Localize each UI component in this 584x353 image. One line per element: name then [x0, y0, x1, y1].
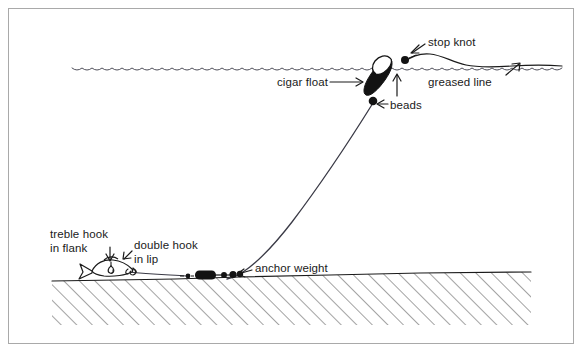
bait-fish	[79, 257, 136, 279]
label-double-hook: double hook in lip	[134, 239, 198, 266]
arrow-double-hook	[123, 251, 132, 259]
water-surface	[72, 68, 562, 70]
arrow-beads	[377, 100, 388, 108]
bait-fish-tail	[79, 264, 92, 279]
greased-line	[404, 54, 562, 67]
label-treble-hook: treble hook in flank	[50, 228, 108, 255]
cigar-float	[364, 56, 392, 95]
swivel-mid	[221, 272, 227, 278]
arrow-beads-up	[393, 74, 401, 96]
anchor-weight-body	[195, 271, 216, 280]
swivel-right	[229, 271, 236, 278]
label-beads: beads	[390, 99, 422, 113]
arrow-cigar-float	[330, 78, 363, 86]
arrow-stop-knot	[411, 44, 425, 53]
swivel-left	[186, 274, 191, 279]
fishing-rig-diagram: cigar float stop knot greased line beads…	[0, 0, 584, 353]
label-treble-hook-line1: treble hook	[50, 228, 108, 242]
label-double-hook-line2: in lip	[134, 253, 198, 267]
label-greased-line: greased line	[428, 76, 492, 90]
arrow-greased-line	[506, 63, 520, 75]
main-line	[227, 103, 373, 279]
stop-knot-bead	[401, 56, 409, 64]
label-stop-knot: stop knot	[428, 36, 476, 50]
label-double-hook-line1: double hook	[134, 239, 198, 253]
label-treble-hook-line2: in flank	[50, 242, 108, 256]
lower-bead	[369, 97, 378, 106]
diagram-canvas	[0, 0, 584, 353]
lakebed	[45, 268, 540, 330]
label-anchor-weight: anchor weight	[255, 262, 328, 276]
label-cigar-float: cigar float	[277, 76, 328, 90]
